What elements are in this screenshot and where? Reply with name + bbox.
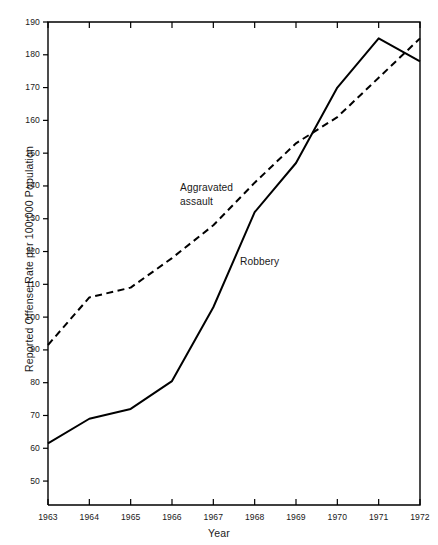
axis-frame: [48, 22, 420, 505]
plot-area: [0, 0, 438, 545]
series-label-robbery: Robbery: [240, 255, 279, 269]
axis-lines: [48, 22, 420, 505]
data-series-group: [48, 38, 420, 443]
series-label-aggravated-assault: Aggravated assault: [180, 181, 233, 208]
data-line-aggravated-assault: [48, 38, 420, 345]
data-line-robbery: [48, 38, 420, 443]
line-chart: Reported Offense Rate per 100,000 Popula…: [0, 0, 438, 545]
